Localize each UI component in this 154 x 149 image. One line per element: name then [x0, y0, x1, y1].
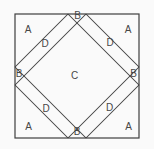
quilt-block-diagram: AAAABBBBCDDDD: [0, 0, 154, 149]
label-d-bottom-right: D: [106, 102, 113, 113]
label-d-bottom-left: D: [42, 103, 49, 114]
figure-canvas: AAAABBBBCDDDD: [0, 0, 154, 149]
label-d-top-left: D: [41, 38, 48, 49]
label-b-right: B: [130, 68, 137, 79]
label-a-bottom-right: A: [125, 121, 132, 132]
label-a-bottom-left: A: [25, 121, 32, 132]
label-d-top-right: D: [106, 37, 113, 48]
label-c-center: C: [71, 70, 78, 81]
piece-labels-group: AAAABBBBCDDDD: [16, 10, 138, 137]
label-a-top-left: A: [25, 24, 32, 35]
label-b-left: B: [16, 68, 23, 79]
label-a-top-right: A: [125, 24, 132, 35]
label-b-top: B: [74, 10, 81, 21]
label-b-bottom: B: [74, 126, 81, 137]
